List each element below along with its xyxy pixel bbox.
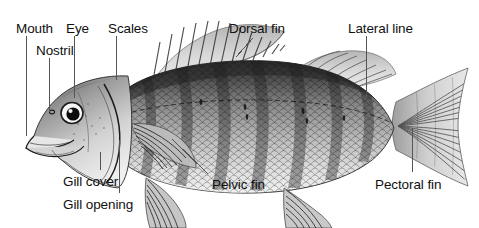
label-gill-cover: Gill cover xyxy=(63,175,118,189)
label-nostril: Nostril xyxy=(36,44,74,58)
label-eye: Eye xyxy=(66,22,89,36)
label-scales: Scales xyxy=(108,22,148,36)
label-gill-opening: Gill opening xyxy=(63,198,133,212)
fish-anatomy-diagram: Mouth Eye Scales Dorsal fin Lateral line… xyxy=(0,0,479,228)
anal-fin-icon xyxy=(284,188,332,228)
eye-icon xyxy=(61,103,83,124)
label-lateral-line: Lateral line xyxy=(348,22,413,36)
label-pelvic-fin: Pelvic fin xyxy=(212,178,265,192)
caudal-fin-icon xyxy=(392,68,470,186)
label-mouth: Mouth xyxy=(16,22,53,36)
label-dorsal-fin: Dorsal fin xyxy=(229,22,285,36)
label-pectoral-fin: Pectoral fin xyxy=(375,178,441,192)
